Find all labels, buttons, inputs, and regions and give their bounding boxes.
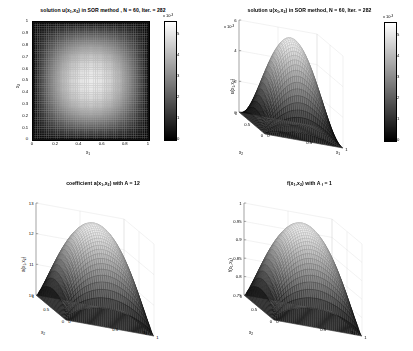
y-tick-label: 0.3 [0, 101, 28, 106]
x-tick-label: 0.5 [306, 140, 312, 145]
y-tick-label: 1 [240, 294, 243, 299]
subplot-1: solution u(x1,x2) in SOR method , N = 60… [0, 0, 206, 170]
subplot-4-surface-plot: 0.750.80.850.90.95110.5000.51 [230, 202, 402, 342]
subplot-3-x-axis-label: x1 [143, 330, 147, 336]
x-tick-label: 1 [364, 335, 367, 340]
colorbar-tick-label: 2 [177, 94, 179, 99]
subplot-1-y-axis-label: x2 [15, 84, 21, 88]
subplot-2-x-axis-label: x1 [336, 150, 340, 156]
y-tick-label: 0.5 [251, 307, 257, 312]
y-tick-label: 0.5 [244, 122, 250, 127]
subplot-4-y-axis-label: x2 [249, 330, 253, 336]
subplot-2-y-axis-label: x2 [239, 150, 243, 156]
subplot-2-z-exponent: x 10-3 [224, 24, 234, 29]
z-tick-label: 0.95 [233, 219, 242, 224]
colorbar-tick-label: 4 [397, 53, 399, 58]
subplot-1-x-axis-label: x1 [86, 150, 90, 156]
colorbar-tick-label: 3 [177, 73, 179, 78]
colorbar-tick-label: 4 [177, 52, 179, 57]
x-tick-label: 0.8 [119, 141, 131, 146]
colorbar-tick-label: 0 [177, 136, 179, 141]
heatmap-plot-area [32, 21, 150, 141]
subplot-2: solution u(x1,x2) in SOR method, N = 60,… [206, 0, 413, 170]
z-tick-label: 12 [29, 231, 34, 236]
y-tick-label: 0 [0, 136, 28, 141]
z-tick-label: 0.85 [233, 256, 242, 261]
subplot-2-colorbar-exponent: x 10-3 [383, 14, 393, 19]
colorbar-tick-label: 2 [397, 95, 399, 100]
x-tick-label: 0.6 [96, 141, 108, 146]
z-tick-label: 0.8 [236, 274, 242, 279]
y-tick-label: 1 [0, 18, 28, 23]
y-tick-label: 0.4 [0, 89, 28, 94]
subplot-3-z-axis-label: a(x1,x2) [21, 257, 27, 272]
subplot-4-title: f(x1,x2) with A f = 1 [206, 180, 413, 187]
y-tick-label: 0 [62, 319, 65, 324]
y-tick-label: 0.7 [0, 54, 28, 59]
subplot-2-surface-plot: 024610.5000.51 [222, 22, 377, 162]
y-tick-label: 1 [32, 294, 35, 299]
x-tick-label: 1 [156, 335, 159, 340]
x-tick-label: 1 [142, 141, 154, 146]
z-tick-label: 6 [234, 18, 237, 23]
x-tick-label: 0.2 [49, 141, 61, 146]
y-tick-label: 0.9 [0, 30, 28, 35]
x-tick-label: 0 [26, 141, 38, 146]
y-tick-label: 0 [261, 133, 264, 138]
x-tick-label: 1 [345, 147, 348, 152]
colorbar-tick-label: 5 [177, 31, 179, 36]
subplot-2-colorbar [384, 22, 397, 142]
subplot-1-colorbar [164, 21, 177, 141]
x-tick-label: 0.5 [112, 327, 118, 332]
y-tick-label: 0.8 [0, 42, 28, 47]
figure-canvas: solution u(x1,x2) in SOR method , N = 60… [0, 0, 413, 351]
subplot-3: coefficient a(x1,x2) with A = 12 1011121… [0, 170, 206, 351]
x-tick-label: 0.5 [320, 327, 326, 332]
subplot-4-z-axis-label: f(x1,x2) [228, 258, 234, 272]
z-tick-label: 1 [239, 201, 242, 206]
colorbar-tick-label: 3 [397, 74, 399, 79]
subplot-3-title: coefficient a(x1,x2) with A = 12 [0, 180, 206, 187]
subplot-4-x-axis-label: x1 [351, 330, 355, 336]
y-tick-label: 0.5 [0, 77, 28, 82]
subplot-1-title: solution u(x1,x2) in SOR method , N = 60… [0, 7, 206, 14]
z-tick-label: 0.9 [236, 237, 242, 242]
subplot-3-surface-plot: 1011121310.5000.51 [22, 202, 194, 342]
y-tick-label: 0.5 [43, 307, 49, 312]
x-tick-label: 0.4 [72, 141, 84, 146]
subplot-4: f(x1,x2) with A f = 1 0.750.80.850.90.95… [206, 170, 413, 351]
colorbar-tick-label: 1 [397, 116, 399, 121]
z-tick-label: 4 [234, 48, 237, 53]
z-tick-label: 13 [29, 201, 34, 206]
subplot-1-colorbar-exponent: x 10-3 [163, 13, 173, 18]
y-tick-label: 0.6 [0, 66, 28, 71]
colorbar-tick-label: 1 [177, 115, 179, 120]
y-tick-label: 0 [270, 319, 273, 324]
subplot-3-y-axis-label: x2 [41, 330, 45, 336]
y-tick-label: 1 [235, 111, 238, 116]
subplot-2-z-axis-label: u(x1,x2) [230, 79, 236, 94]
z-tick-label: 11 [29, 262, 34, 267]
colorbar-tick-label: 0 [397, 137, 399, 142]
y-tick-label: 0.2 [0, 113, 28, 118]
subplot-2-title: solution u(x1,x2) in SOR method, N = 60,… [206, 7, 413, 14]
colorbar-tick-label: 5 [397, 32, 399, 37]
y-tick-label: 0.1 [0, 125, 28, 130]
